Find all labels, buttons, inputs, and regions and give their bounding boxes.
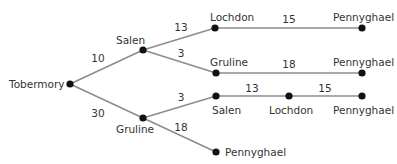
node-salen (139, 46, 146, 53)
node-label: Gruline (210, 57, 248, 68)
node-label: Pennyghael (333, 105, 394, 116)
node-label: Pennyghael (333, 57, 394, 68)
node-label: Gruline (116, 124, 154, 135)
node-pennyghael (358, 69, 365, 76)
node-label: Tobermory (9, 79, 65, 90)
node-label: Lochdon (269, 105, 313, 116)
node-pennyghael (212, 148, 219, 155)
edge-weight: 3 (178, 48, 185, 59)
node-salen (212, 92, 219, 99)
edge-tobermory-salen (70, 50, 143, 84)
node-label: Salen (212, 105, 241, 116)
node-label: Salen (116, 35, 145, 46)
node-tobermory (66, 80, 73, 87)
edge-weight: 13 (174, 22, 187, 33)
node-pennyghael (358, 92, 365, 99)
edge-weight: 13 (245, 83, 258, 94)
node-gruline (212, 69, 219, 76)
edge-weight: 18 (282, 59, 295, 70)
node-lochdon (211, 24, 218, 31)
edge-weight: 10 (91, 53, 104, 64)
edge-weight: 30 (91, 108, 104, 119)
edge-weight: 15 (318, 83, 331, 94)
edge-weight: 3 (178, 92, 185, 103)
edge-weight: 18 (174, 122, 187, 133)
node-label: Pennyghael (225, 147, 286, 158)
edge-tobermory-gruline (70, 84, 143, 118)
node-label: Pennyghael (333, 12, 394, 23)
node-label: Lochdon (210, 12, 254, 23)
node-lochdon (285, 92, 292, 99)
node-gruline (139, 114, 146, 121)
edge-weight: 15 (282, 14, 295, 25)
node-pennyghael (358, 24, 365, 31)
